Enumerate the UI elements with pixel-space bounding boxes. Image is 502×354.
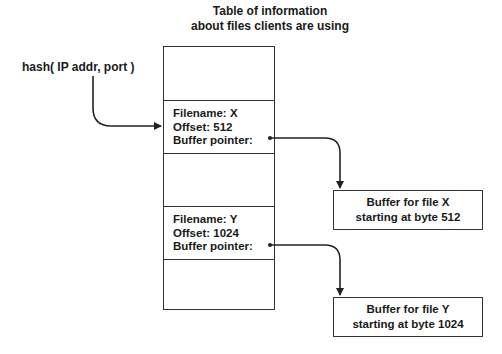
pointer-arrow-x <box>270 138 340 188</box>
connector-arrows <box>0 0 502 354</box>
pointer-arrow-y <box>270 245 340 295</box>
hash-arrow <box>93 76 161 126</box>
